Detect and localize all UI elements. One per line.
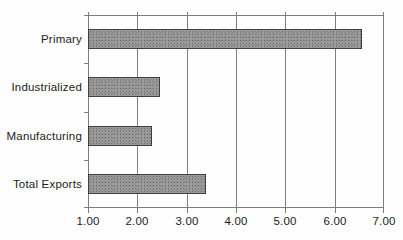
- category-boundary-tick: [84, 15, 88, 16]
- bar-total-exports: [88, 174, 206, 194]
- category-label-manufacturing: Manufacturing: [0, 129, 82, 143]
- category-boundary-tick: [84, 160, 88, 161]
- bottom-tick-6.00: [335, 208, 336, 213]
- category-boundary-tick: [84, 63, 88, 64]
- bottom-tick-5.00: [285, 208, 286, 213]
- bar-manufacturing: [88, 126, 152, 146]
- bar-primary: [88, 29, 362, 49]
- xtick-label-2.00: 2.00: [115, 215, 159, 228]
- xtick-label-5.00: 5.00: [263, 215, 307, 228]
- bottom-tick-3.00: [187, 208, 188, 213]
- category-label-primary: Primary: [0, 32, 82, 46]
- category-label-total-exports: Total Exports: [0, 177, 82, 191]
- plot-area: [88, 15, 384, 208]
- bar-industrialized: [88, 77, 160, 97]
- xtick-label-6.00: 6.00: [313, 215, 357, 228]
- top-tick-3.00: [187, 12, 188, 15]
- bottom-tick-2.00: [137, 208, 138, 213]
- category-boundary-tick: [84, 207, 88, 208]
- bar-chart-figure: PrimaryIndustrializedManufacturingTotal …: [0, 0, 403, 240]
- top-tick-2.00: [137, 12, 138, 15]
- bottom-tick-7.00: [383, 208, 384, 213]
- top-tick-1.00: [88, 12, 89, 15]
- category-boundary-tick: [84, 112, 88, 113]
- xtick-label-3.00: 3.00: [165, 215, 209, 228]
- xtick-label-7.00: 7.00: [362, 215, 403, 228]
- category-label-industrialized: Industrialized: [0, 80, 82, 94]
- xtick-label-4.00: 4.00: [214, 215, 258, 228]
- xtick-label-1.00: 1.00: [66, 215, 110, 228]
- top-tick-4.00: [236, 12, 237, 15]
- top-tick-6.00: [335, 12, 336, 15]
- top-tick-5.00: [285, 12, 286, 15]
- top-tick-7.00: [383, 12, 384, 15]
- bottom-tick-1.00: [88, 208, 89, 213]
- bottom-tick-4.00: [236, 208, 237, 213]
